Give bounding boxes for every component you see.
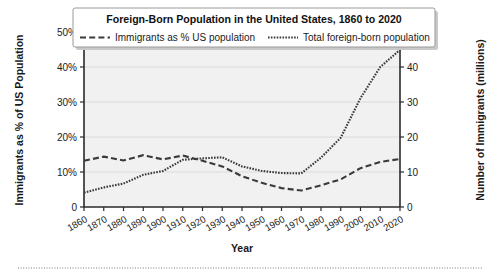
y-axis-right-title: Number of Immigrants (millions) <box>474 39 486 201</box>
x-axis-title: Year <box>231 242 253 254</box>
legend-label-total: Total foreign-born population <box>303 32 430 43</box>
chart-title: Foreign-Born Population in the United St… <box>106 13 402 25</box>
title-legend-box: Foreign-Born Population in the United St… <box>73 8 438 50</box>
y-axis-right-tick-label: 10 <box>407 167 419 178</box>
y-axis-left-tick-label: 0 <box>71 202 77 213</box>
plot-area-background <box>84 32 400 207</box>
foreign-born-population-line-chart: 010%20%30%40%50% 01020304050 18601870188… <box>0 0 501 276</box>
y-axis-right-tick-label: 40 <box>407 62 419 73</box>
y-axis-left-tick-label: 40% <box>57 62 77 73</box>
y-axis-right-tick-label: 0 <box>407 202 413 213</box>
y-axis-left-tick-label: 20% <box>57 132 77 143</box>
y-axis-right-tick-label: 30 <box>407 97 419 108</box>
y-axis-left-title: Immigrants as % of US Population <box>13 35 25 206</box>
legend-label-percent: Immigrants as % US population <box>115 32 255 43</box>
y-axis-left-tick-label: 30% <box>57 97 77 108</box>
chart-figure: 010%20%30%40%50% 01020304050 18601870188… <box>0 0 501 276</box>
y-axis-right-tick-label: 20 <box>407 132 419 143</box>
y-axis-left-tick-label: 10% <box>57 167 77 178</box>
